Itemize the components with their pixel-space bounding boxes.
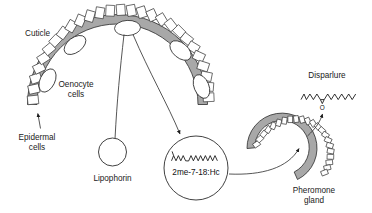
epidermal-cell — [28, 84, 40, 95]
diagram-canvas: Cuticle Oenocyte cells Epidermal cells L… — [0, 0, 372, 213]
epidermal-cell — [95, 7, 105, 19]
lipophorin-vesicle — [99, 138, 127, 166]
gland-cell — [282, 117, 288, 124]
oenocyte-cells-label-line2: cells — [68, 90, 84, 99]
epidermal-cells-label-line2: cells — [29, 143, 45, 152]
oenocyte-cells-label-line1: Oenocyte — [58, 80, 93, 89]
epidermal-cell — [27, 95, 39, 105]
gland-cell — [327, 154, 334, 159]
epidermal-cells-label-line1: Epidermal — [19, 133, 56, 142]
cuticle-label: Cuticle — [25, 29, 50, 38]
pathway-diagram: Cuticle Oenocyte cells Epidermal cells L… — [0, 0, 372, 213]
lipophorin-label: Lipophorin — [93, 174, 132, 183]
pheromone-gland-label-line1: Pheromone — [293, 186, 336, 195]
hydrocarbon-vesicle-group: 2me-7-18:Hc — [164, 136, 228, 200]
epidermal-cell — [126, 4, 136, 16]
epidermal-cell — [106, 5, 115, 16]
disparlure-label: Disparlure — [308, 71, 346, 80]
gland-cell — [293, 115, 299, 122]
gland-cell — [327, 148, 334, 154]
epoxide-oxygen-label: O — [320, 104, 325, 111]
epidermal-cell — [116, 4, 125, 15]
pheromone-gland-label-line2: gland — [304, 196, 324, 205]
hydrocarbon-formula-label: 2me-7-18:Hc — [172, 168, 219, 177]
gland-cell — [326, 160, 333, 165]
gland-cell — [288, 116, 293, 123]
